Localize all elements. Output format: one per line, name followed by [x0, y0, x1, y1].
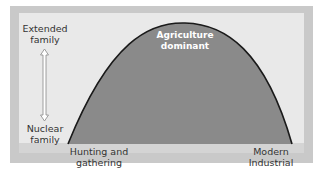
hunting-gathering-label: Hunting and gathering	[64, 146, 134, 168]
dominant-line: dominant	[140, 41, 230, 52]
industrial-line: Industrial	[238, 157, 304, 168]
extended-family-label: Extended family	[20, 23, 70, 45]
modern-industrial-label: Modern Industrial	[238, 146, 304, 168]
family-line-bottom: family	[20, 134, 70, 145]
hunting-line: Hunting and	[64, 146, 134, 157]
family-line-top: family	[20, 34, 70, 45]
extended-line: Extended	[20, 23, 70, 34]
double-arrow-icon	[40, 49, 49, 121]
agriculture-line: Agriculture	[140, 30, 230, 41]
gathering-line: gathering	[64, 157, 134, 168]
modern-line: Modern	[238, 146, 304, 157]
nuclear-line: Nuclear	[20, 123, 70, 134]
nuclear-family-label: Nuclear family	[20, 123, 70, 145]
agriculture-dominant-label: Agriculture dominant	[140, 30, 230, 52]
